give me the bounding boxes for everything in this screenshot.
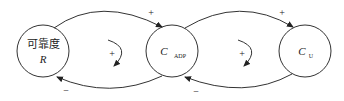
edge-cu-to-cadp xyxy=(185,74,292,88)
edge-cadp-to-cu-sign: + xyxy=(279,7,285,18)
node-cadp-main: C xyxy=(160,45,168,57)
node-reliability-label: 可靠度 xyxy=(27,37,60,50)
node-reliability-symbol: R xyxy=(39,53,47,65)
edge-cu-to-cadp-sign: − xyxy=(193,86,199,97)
node-cu-main: C xyxy=(298,45,306,57)
node-cu-sub: U xyxy=(309,53,314,59)
loop-indicator-1: + xyxy=(108,40,122,66)
node-cadp: C ADP xyxy=(146,25,198,77)
edge-r-to-cadp-sign: + xyxy=(148,7,154,18)
edge-cadp-to-r xyxy=(57,76,162,88)
edge-cadp-to-cu xyxy=(185,11,293,28)
node-cadp-sub: ADP xyxy=(174,53,187,59)
causal-loop-diagram: 可靠度 R C ADP C U + − + − + + xyxy=(0,0,344,101)
loop-indicator-2: + xyxy=(238,40,252,66)
loop-2-polarity: + xyxy=(239,48,245,59)
node-cu: C U xyxy=(279,25,331,77)
node-reliability: 可靠度 R xyxy=(17,25,69,77)
edge-cadp-to-r-sign: − xyxy=(63,85,69,96)
loop-1-polarity: + xyxy=(109,48,115,59)
edge-r-to-cadp xyxy=(54,11,162,28)
